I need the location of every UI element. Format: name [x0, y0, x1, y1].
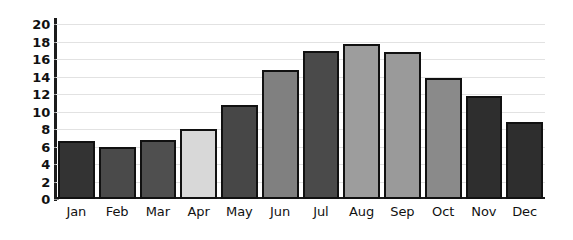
plot-area	[56, 24, 545, 199]
y-tick-label: 16	[16, 53, 50, 66]
y-tick-label: 2	[16, 176, 50, 189]
x-tick-label: Nov	[464, 205, 505, 218]
bar	[58, 141, 95, 199]
bar	[262, 70, 299, 199]
y-tick-label: 12	[16, 88, 50, 101]
bar	[99, 147, 136, 199]
bar	[140, 140, 177, 199]
bar	[425, 78, 462, 199]
bar	[221, 105, 258, 200]
x-tick-label: Jan	[56, 205, 97, 218]
y-tick-label: 0	[16, 193, 50, 206]
y-tick-mark	[54, 199, 59, 200]
bar	[506, 122, 543, 199]
x-tick-label: Dec	[504, 205, 545, 218]
bar	[384, 52, 421, 199]
bar	[180, 129, 217, 199]
y-tick-label: 6	[16, 141, 50, 154]
y-tick-label: 20	[16, 18, 50, 31]
bar	[343, 44, 380, 199]
x-axis-tick-labels: JanFebMarAprMayJunJulAugSepOctNovDec	[56, 205, 545, 229]
x-tick-label: May	[219, 205, 260, 218]
y-tick-label: 4	[16, 158, 50, 171]
y-tick-label: 14	[16, 71, 50, 84]
x-tick-label: Jul	[301, 205, 342, 218]
x-tick-label: Aug	[341, 205, 382, 218]
x-tick-label: Sep	[382, 205, 423, 218]
x-tick-label: Mar	[138, 205, 179, 218]
y-axis-tick-labels: 02468101214161820	[10, 24, 50, 199]
bar	[303, 51, 340, 199]
y-tick-label: 8	[16, 123, 50, 136]
x-tick-label: Feb	[97, 205, 138, 218]
bar-chart: 02468101214161820 JanFebMarAprMayJunJulA…	[0, 0, 573, 240]
x-tick-label: Jun	[260, 205, 301, 218]
y-tick-label: 18	[16, 36, 50, 49]
y-tick-label: 10	[16, 106, 50, 119]
bars-layer	[56, 24, 545, 199]
bar	[466, 96, 503, 199]
x-tick-label: Oct	[423, 205, 464, 218]
x-tick-label: Apr	[178, 205, 219, 218]
